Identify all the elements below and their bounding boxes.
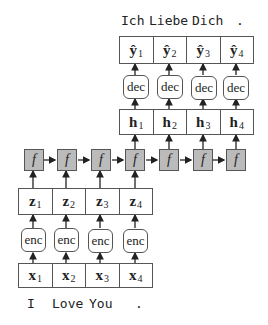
decoder-box: dec — [123, 75, 149, 99]
latent-cell: z4 — [119, 189, 153, 214]
output-word: Ich — [121, 13, 144, 28]
input-word: . — [135, 296, 143, 311]
input-cell: x2 — [52, 264, 86, 287]
input-cell: x1 — [19, 264, 52, 287]
output-vector-row: ŷ1 ŷ2 ŷ3 ŷ4 — [119, 36, 254, 64]
latent-cell: z3 — [85, 189, 119, 214]
input-cell: x3 — [85, 264, 119, 287]
output-cell: ŷ3 — [186, 37, 220, 63]
encoder-box: enc — [123, 229, 148, 253]
input-row: x1 x2 x3 x4 — [18, 263, 153, 288]
latent-cell: z1 — [19, 189, 52, 214]
encoder-box: enc — [54, 228, 79, 252]
recurrent-f-box: f — [57, 149, 77, 171]
input-word: I — [27, 296, 35, 311]
recurrent-f-box: f — [91, 149, 111, 171]
decoder-box: dec — [191, 76, 217, 100]
hidden-cell: h2 — [153, 110, 187, 134]
output-cell: ŷ2 — [153, 37, 187, 63]
input-word: You — [89, 296, 112, 311]
recurrent-f-box: f — [125, 149, 145, 171]
hidden-cell: h4 — [220, 110, 254, 134]
output-cell: ŷ4 — [220, 37, 254, 63]
decoder-box: dec — [157, 75, 183, 99]
recurrent-f-box: f — [226, 149, 246, 171]
input-cell: x4 — [119, 264, 153, 287]
output-word: Liebe — [149, 13, 188, 28]
recurrent-f-box: f — [24, 149, 44, 171]
encoder-box: enc — [88, 229, 113, 253]
input-word: Love — [52, 296, 83, 311]
recurrent-f-box: f — [193, 149, 213, 171]
hidden-cell: h1 — [120, 110, 153, 134]
output-word: . — [236, 13, 244, 28]
latent-row: z1 z2 z3 z4 — [18, 188, 153, 215]
latent-cell: z2 — [52, 189, 86, 214]
output-cell: ŷ1 — [120, 37, 153, 63]
decoder-box: dec — [223, 76, 249, 100]
hidden-cell: h3 — [186, 110, 220, 134]
encoder-box: enc — [21, 228, 46, 252]
output-word: Dich — [192, 13, 223, 28]
hidden-state-row: h1 h2 h3 h4 — [119, 109, 254, 135]
recurrent-f-box: f — [159, 149, 179, 171]
